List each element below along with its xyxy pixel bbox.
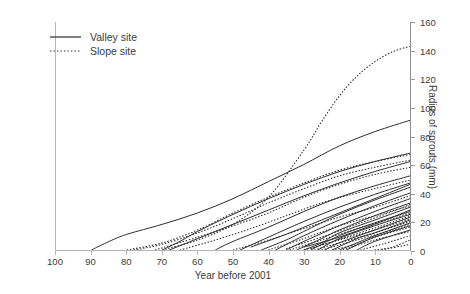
x-tick-label: 70: [157, 256, 168, 267]
x-tick-mark: [375, 251, 376, 255]
x-tick-label: 0: [408, 256, 413, 267]
x-tick-mark: [197, 251, 198, 255]
y-tick-mark: [411, 22, 415, 23]
x-tick-label: 10: [370, 256, 381, 267]
x-tick-mark: [162, 251, 163, 255]
x-tick-label: 40: [263, 256, 274, 267]
y-tick-label: 40: [420, 188, 431, 199]
x-tick-mark: [126, 251, 127, 255]
series-line: [162, 153, 410, 250]
x-axis-title: Year before 2001: [55, 270, 411, 281]
x-tick-mark: [55, 251, 56, 255]
series-line: [382, 244, 410, 250]
y-tick-mark: [411, 108, 415, 109]
x-tick-label: 100: [47, 256, 63, 267]
x-tick-label: 60: [192, 256, 203, 267]
x-tick-mark: [304, 251, 305, 255]
legend-label-valley: Valley site: [90, 31, 137, 43]
legend-item-valley: Valley site: [50, 30, 137, 44]
y-axis-title: Radius of sprouts (mm): [427, 85, 438, 189]
legend-label-slope: Slope site: [90, 45, 136, 57]
x-tick-mark: [269, 251, 270, 255]
y-tick-mark: [411, 194, 415, 195]
y-tick-mark: [411, 79, 415, 80]
x-tick-label: 90: [85, 256, 96, 267]
x-tick-label: 80: [121, 256, 132, 267]
x-tick-mark: [340, 251, 341, 255]
y-tick-label: 0: [420, 246, 425, 257]
solid-line-icon: [50, 32, 81, 42]
chart-legend: Valley site Slope site: [50, 30, 137, 58]
y-tick-label: 160: [420, 17, 436, 28]
dotted-line-icon: [50, 46, 81, 56]
series-line: [127, 155, 410, 250]
y-tick-mark: [411, 251, 415, 252]
x-tick-mark: [91, 251, 92, 255]
y-tick-label: 120: [420, 74, 436, 85]
y-tick-label: 20: [420, 217, 431, 228]
chart-figure: 1009080706050403020100 02040608010012014…: [0, 0, 470, 294]
y-tick-mark: [411, 165, 415, 166]
legend-item-slope: Slope site: [50, 44, 137, 58]
x-tick-mark: [233, 251, 234, 255]
y-tick-label: 140: [420, 45, 436, 56]
x-tick-label: 30: [299, 256, 310, 267]
y-tick-mark: [411, 51, 415, 52]
y-tick-mark: [411, 137, 415, 138]
x-tick-label: 50: [228, 256, 239, 267]
x-tick-label: 20: [335, 256, 346, 267]
y-tick-mark: [411, 222, 415, 223]
